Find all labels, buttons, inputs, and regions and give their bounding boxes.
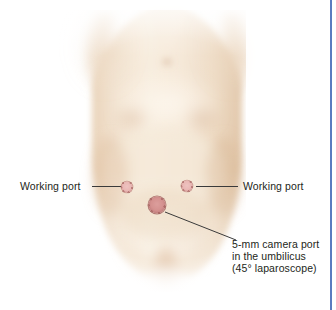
left-white-band (0, 0, 58, 310)
working-port-left-marker[interactable] (122, 182, 133, 193)
right-working-port-leader-line (196, 186, 238, 187)
camera-port-caption-line-3: (45° laparoscope) (232, 262, 319, 274)
working-port-left-label: Working port (20, 181, 81, 193)
right-border-rule (330, 0, 332, 310)
laparoscopic-port-placement-figure: Working port Working port 5-mm camera po… (0, 0, 336, 310)
camera-port-caption-line-2: in the umbilicus (232, 250, 319, 262)
top-white-band (0, 0, 336, 10)
working-port-right-label: Working port (243, 181, 304, 193)
camera-port-caption-line-1: 5-mm camera port (232, 238, 319, 250)
left-working-port-leader-line (92, 186, 121, 187)
working-port-right-marker[interactable] (182, 181, 193, 192)
camera-port-caption: 5-mm camera port in the umbilicus (45° l… (232, 238, 319, 274)
camera-port-umbilical-marker[interactable] (149, 197, 166, 214)
bottom-white-band (0, 292, 336, 310)
